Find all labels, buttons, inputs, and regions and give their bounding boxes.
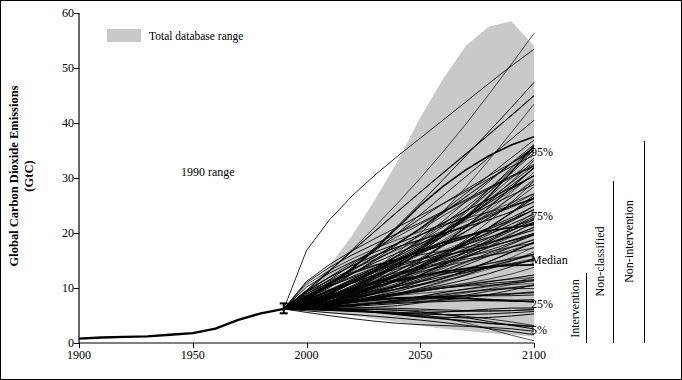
- plot-area: 0102030405060 19001950200020502100 Total…: [79, 13, 534, 343]
- y-tick-label: 40: [62, 116, 74, 131]
- historical-emissions-line: [79, 309, 284, 339]
- annotation-median: Median: [531, 253, 568, 268]
- y-tick-mark: [74, 288, 79, 289]
- y-tick-mark: [74, 123, 79, 124]
- annotation-p25: 25%: [531, 297, 553, 312]
- x-tick-label: 2050: [408, 348, 432, 363]
- chart-figure: Global Carbon Dioxide Emissions (GtC) 01…: [0, 0, 682, 380]
- x-tick-mark: [534, 343, 535, 348]
- x-tick-label: 1900: [67, 348, 91, 363]
- y-axis-title: Global Carbon Dioxide Emissions (GtC): [7, 61, 37, 291]
- y-tick-label: 60: [62, 6, 74, 21]
- side-label-non-intervention: Non-intervention: [621, 141, 637, 341]
- legend-swatch: [107, 29, 141, 42]
- x-tick-mark: [307, 343, 308, 348]
- chart-svg: [79, 13, 534, 343]
- x-tick-label: 1950: [181, 348, 205, 363]
- annotation-1990-range: 1990 range: [181, 165, 235, 180]
- y-tick-label: 20: [62, 226, 74, 241]
- y-tick-mark: [74, 233, 79, 234]
- x-tick-label: 2100: [522, 348, 546, 363]
- side-rule-non-classified: [613, 181, 614, 343]
- legend: Total database range: [107, 29, 243, 42]
- annotation-p95: 95%: [531, 145, 553, 160]
- y-tick-mark: [74, 178, 79, 179]
- y-tick-label: 30: [62, 171, 74, 186]
- x-tick-label: 2000: [295, 348, 319, 363]
- y-tick-mark: [74, 68, 79, 69]
- side-label-intervention: Intervention: [567, 273, 583, 343]
- side-label-non-classified: Non-classified: [593, 181, 609, 341]
- annotation-p75: 75%: [531, 209, 553, 224]
- legend-label: Total database range: [149, 30, 243, 42]
- y-tick-mark: [74, 13, 79, 14]
- y-tick-label: 10: [62, 281, 74, 296]
- x-tick-mark: [79, 343, 80, 348]
- y-axis-title-line1: Global Carbon Dioxide Emissions: [7, 86, 21, 267]
- side-rule-intervention: [586, 273, 587, 343]
- y-axis-title-line2: (GtC): [22, 160, 36, 191]
- annotation-p5: 5%: [531, 323, 547, 338]
- side-rule-non-intervention: [644, 141, 645, 343]
- x-tick-mark: [193, 343, 194, 348]
- x-tick-mark: [420, 343, 421, 348]
- y-tick-label: 50: [62, 61, 74, 76]
